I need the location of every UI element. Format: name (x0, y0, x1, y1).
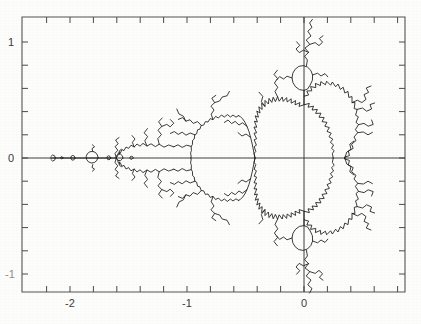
origin-axes (22, 17, 405, 292)
seahorse-valley-cusp-lower (238, 158, 255, 200)
mandelbrot-figure: -2 -1 0 1 0 -1 (0, 0, 421, 324)
x-tick-label-minus1: -1 (182, 297, 192, 309)
seahorse-tail-lower-b (238, 179, 251, 184)
antenna-satellite-frill-up (92, 145, 95, 152)
left-fan-spur-up-b (144, 129, 147, 146)
bulb-upper-tendril-a (211, 95, 216, 119)
left-fan-branch-far-up (162, 120, 174, 127)
left-fan-upper (116, 143, 174, 157)
lower-shoulder-filament-left (274, 219, 278, 246)
x-axis-ticks-bottom (47, 286, 398, 292)
right-mid-filament-lower (358, 181, 373, 184)
top-period3-bulb (292, 66, 313, 97)
bottom-bulb-shoulder-left (277, 236, 292, 240)
cardioid-left-upper (254, 97, 304, 158)
x-tick-label-minus2: -2 (65, 297, 75, 309)
right-lower-filament-a (352, 213, 371, 230)
bulb-lower-tendril-a (211, 196, 216, 220)
bulb-lower-tendril-c (170, 181, 194, 185)
period2-bulb-lower (191, 158, 239, 201)
bulb-lower-spur (215, 213, 230, 224)
top-antenna-filament (305, 19, 313, 65)
antenna-satellite-frill-down (92, 165, 95, 172)
bulb-lower-tendril-d (174, 169, 191, 172)
x-axis-ticks-top (47, 17, 398, 23)
upper-shoulder-filament-left (274, 70, 278, 97)
y-tick-label-zero: 0 (8, 152, 14, 164)
seahorse-tail-upper-b (238, 133, 251, 138)
antenna-satellite-large (86, 151, 98, 163)
left-fan-spur-down-b (144, 170, 147, 187)
y-tick-label-minus-one: -1 (5, 268, 15, 280)
left-fan-spur-up-a (158, 118, 162, 144)
top-bulb-shoulder-left (277, 76, 292, 80)
bulb-upper-tendril-c (170, 132, 194, 136)
bulb-tendril-top-spur (215, 91, 230, 102)
left-fan-branch-far-down (162, 189, 174, 196)
left-fan-spur-up-c (132, 136, 135, 147)
cardioid-left-lower (254, 158, 304, 219)
bulb-upper-tendril-b (178, 118, 201, 126)
bottom-bulb-shoulder-right (313, 239, 328, 243)
bottom-period3-bulb (292, 220, 313, 251)
period2-bulb-upper (191, 115, 239, 158)
left-fan-lower (116, 158, 174, 172)
plot-canvas (0, 0, 421, 324)
bulb-lower-tendril-b (178, 191, 201, 199)
antenna-satellite-mid (116, 154, 123, 161)
bulb-upper-tendril-d (174, 145, 191, 148)
top-antenna-branch-right (310, 36, 323, 46)
top-bulb-shoulder-right (313, 73, 328, 77)
right-lower-filament-c (359, 190, 374, 196)
right-upper-filament-a (352, 86, 371, 103)
plot-frame (22, 17, 405, 292)
seahorse-valley-cusp-upper (238, 116, 255, 158)
right-upper-filament-b (357, 103, 374, 111)
right-mid-filament (358, 132, 373, 135)
right-upper-filament-c (359, 120, 374, 126)
mandelbrot-boundary-curve (51, 19, 375, 293)
left-fan-spur-down-a (158, 172, 162, 198)
x-tick-label-zero: 0 (301, 297, 307, 309)
left-fan-spur-down-c (132, 169, 135, 180)
right-lower-filament-b (357, 205, 374, 213)
y-tick-label-one: 1 (8, 36, 14, 48)
bottom-antenna-branch-right (310, 270, 323, 280)
